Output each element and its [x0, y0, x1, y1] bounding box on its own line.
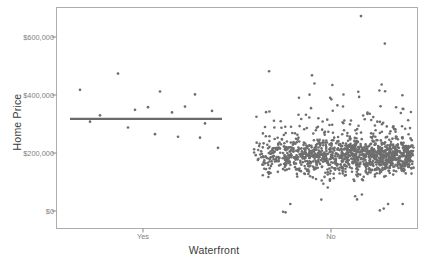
data-point	[380, 159, 383, 162]
data-point	[154, 133, 157, 136]
data-point	[373, 148, 376, 151]
data-point	[389, 148, 392, 151]
data-point	[326, 173, 329, 176]
data-point	[324, 160, 327, 163]
data-point	[354, 195, 357, 198]
data-point	[352, 153, 355, 156]
data-point	[286, 140, 289, 143]
data-point	[278, 164, 281, 167]
data-point	[402, 145, 405, 148]
data-point	[278, 147, 281, 150]
data-point	[296, 173, 299, 176]
data-point	[297, 114, 300, 117]
data-point	[387, 169, 390, 172]
data-point	[409, 152, 412, 155]
data-point	[344, 170, 347, 173]
data-point	[269, 156, 272, 159]
data-point	[304, 150, 307, 153]
data-point	[343, 147, 346, 150]
data-point	[336, 164, 339, 167]
data-point	[350, 157, 353, 160]
data-point	[350, 147, 353, 150]
data-point	[315, 129, 318, 132]
y-axis-ticks	[52, 37, 57, 211]
data-point	[391, 155, 394, 158]
data-point	[293, 162, 296, 165]
data-point	[373, 169, 376, 172]
data-point	[356, 198, 359, 201]
data-point	[322, 182, 325, 185]
data-point	[390, 141, 393, 144]
data-point	[331, 110, 334, 113]
data-point	[394, 130, 397, 133]
data-point	[324, 171, 327, 174]
data-point	[289, 203, 292, 206]
y-tick-label: $200,000	[23, 149, 54, 158]
data-point	[268, 167, 271, 170]
data-point	[372, 153, 375, 156]
data-point	[308, 116, 311, 119]
data-point	[268, 140, 271, 143]
data-point	[258, 145, 261, 148]
data-point	[332, 131, 335, 134]
data-point	[255, 116, 258, 119]
data-point	[407, 133, 410, 136]
data-point	[299, 152, 302, 155]
data-point	[320, 147, 323, 150]
data-point	[374, 135, 377, 138]
data-point	[329, 172, 332, 175]
data-point	[369, 158, 372, 161]
data-point	[372, 132, 375, 135]
data-point	[273, 119, 276, 122]
data-point	[276, 137, 279, 140]
data-point	[351, 170, 354, 173]
data-point	[341, 161, 344, 164]
data-point	[285, 156, 288, 159]
data-point	[400, 112, 403, 115]
data-point	[265, 135, 268, 138]
data-point	[344, 167, 347, 170]
data-point	[309, 175, 312, 178]
data-point	[364, 159, 367, 162]
data-point	[388, 151, 391, 154]
data-point	[409, 137, 412, 140]
data-point	[262, 142, 265, 145]
data-point	[382, 168, 385, 171]
data-point	[308, 157, 311, 160]
data-point	[277, 143, 280, 146]
data-point	[324, 130, 327, 133]
data-point	[294, 142, 297, 145]
data-point	[355, 132, 358, 135]
data-point	[263, 159, 266, 162]
data-point	[358, 96, 361, 99]
data-point	[127, 126, 130, 129]
data-point	[253, 148, 256, 151]
data-point	[345, 164, 348, 167]
data-point	[305, 127, 308, 130]
data-point	[267, 176, 270, 179]
data-point	[326, 118, 329, 121]
data-point	[374, 129, 377, 132]
data-point	[271, 163, 274, 166]
data-point	[267, 152, 270, 155]
data-point	[326, 153, 329, 156]
data-point	[282, 134, 285, 137]
data-point	[376, 160, 379, 163]
data-point	[286, 168, 289, 171]
data-point	[315, 146, 318, 149]
data-point	[392, 125, 395, 128]
data-point	[390, 159, 393, 162]
data-point	[372, 162, 375, 165]
data-point	[372, 116, 375, 119]
data-point	[283, 163, 286, 166]
data-point	[283, 166, 286, 169]
data-point	[395, 144, 398, 147]
data-point	[339, 163, 342, 166]
data-point	[345, 174, 348, 177]
data-point	[171, 111, 174, 114]
data-point	[322, 144, 325, 147]
data-point	[347, 163, 350, 166]
data-point	[336, 155, 339, 158]
data-point	[317, 158, 320, 161]
data-point	[393, 169, 396, 172]
